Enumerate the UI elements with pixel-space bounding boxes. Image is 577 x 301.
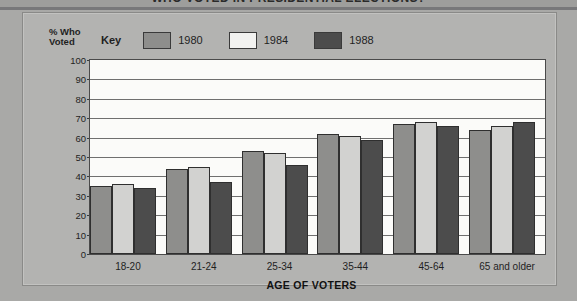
x-axis-tick-label: 21-24 bbox=[166, 261, 242, 275]
x-axis-tick-label: 65 and older bbox=[469, 261, 545, 275]
x-axis-labels: 18-2021-2425-3435-4445-6465 and older bbox=[90, 261, 545, 275]
y-axis-tick-label: 60 bbox=[64, 132, 86, 143]
legend-swatch-1984 bbox=[229, 32, 257, 49]
bar-1984 bbox=[339, 136, 361, 254]
y-axis-tick-label: 50 bbox=[64, 152, 86, 163]
legend-label-1984: 1984 bbox=[264, 34, 288, 46]
chart-frame: % Who Voted Key 1980 1984 1988 100908070… bbox=[22, 12, 557, 286]
y-axis-tick-label: 10 bbox=[64, 229, 86, 240]
legend-swatch-1988 bbox=[314, 32, 342, 49]
legend-swatch-1980 bbox=[143, 32, 171, 49]
bar-1988 bbox=[210, 182, 232, 254]
legend-item-1984: 1984 bbox=[229, 32, 288, 49]
bar-group bbox=[242, 60, 318, 254]
legend-item-1988: 1988 bbox=[314, 32, 373, 49]
chart-page: WHO VOTED IN PRESIDENTIAL ELECTIONS? % W… bbox=[0, 0, 577, 301]
bar-1980 bbox=[242, 151, 264, 254]
y-axis-caption-line2: Voted bbox=[49, 37, 81, 47]
y-axis-tick-label: 40 bbox=[64, 171, 86, 182]
bar-group bbox=[393, 60, 469, 254]
bar-1984 bbox=[415, 122, 437, 254]
y-axis-tick-label: 70 bbox=[64, 113, 86, 124]
x-axis-tick-label: 35-44 bbox=[317, 261, 393, 275]
y-axis-tick-label: 90 bbox=[64, 74, 86, 85]
x-axis-tick-label: 18-20 bbox=[90, 261, 166, 275]
legend: Key 1980 1984 1988 bbox=[101, 29, 400, 51]
bar-1988 bbox=[437, 126, 459, 254]
bar-1980 bbox=[393, 124, 415, 254]
legend-item-1980: 1980 bbox=[143, 32, 202, 49]
y-axis-tick-label: 100 bbox=[64, 55, 86, 66]
bar-1984 bbox=[264, 153, 286, 254]
bar-1984 bbox=[491, 126, 513, 254]
bar-1980 bbox=[166, 169, 188, 254]
y-axis-caption: % Who Voted bbox=[49, 27, 81, 46]
bar-1980 bbox=[90, 186, 112, 254]
page-title: WHO VOTED IN PRESIDENTIAL ELECTIONS? bbox=[0, 0, 577, 5]
bar-group bbox=[166, 60, 242, 254]
y-axis-tick-label: 20 bbox=[64, 210, 86, 221]
y-axis-tick-label: 30 bbox=[64, 190, 86, 201]
bar-1980 bbox=[317, 134, 339, 254]
y-axis-tick-label: 80 bbox=[64, 93, 86, 104]
bar-group bbox=[317, 60, 393, 254]
bar-1988 bbox=[361, 140, 383, 254]
y-axis-tick-label: 0 bbox=[64, 249, 86, 260]
bar-1980 bbox=[469, 130, 491, 254]
bar-1988 bbox=[286, 165, 308, 254]
bar-1984 bbox=[112, 184, 134, 254]
bar-1988 bbox=[513, 122, 535, 254]
bar-group bbox=[90, 60, 166, 254]
bar-group bbox=[469, 60, 545, 254]
x-axis-tick-label: 25-34 bbox=[242, 261, 318, 275]
legend-label-1988: 1988 bbox=[349, 34, 373, 46]
plot-area: 1009080706050403020100 bbox=[64, 59, 546, 255]
title-divider bbox=[0, 7, 577, 10]
x-axis-title: AGE OF VOTERS bbox=[45, 279, 577, 291]
legend-key-label: Key bbox=[101, 34, 121, 46]
bar-1988 bbox=[134, 188, 156, 254]
legend-label-1980: 1980 bbox=[178, 34, 202, 46]
bar-1984 bbox=[188, 167, 210, 254]
x-axis-tick-label: 45-64 bbox=[393, 261, 469, 275]
bar-groups bbox=[90, 60, 545, 254]
